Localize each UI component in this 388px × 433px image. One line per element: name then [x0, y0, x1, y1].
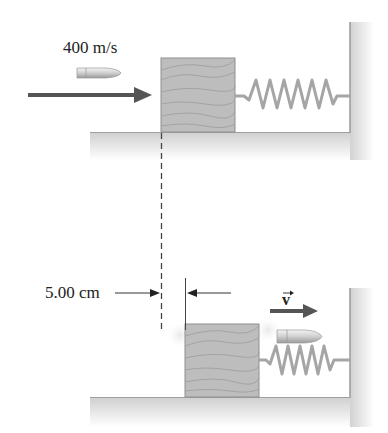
floor [90, 397, 360, 427]
spring [235, 80, 350, 108]
wall [350, 288, 374, 427]
displacement-label: 5.00 cm [45, 283, 100, 303]
velocity-arrow [270, 291, 318, 319]
wooden-block [185, 324, 259, 397]
bullet-icon [77, 68, 121, 78]
displacement-marker [115, 278, 231, 330]
floor [90, 132, 360, 160]
bullet-speed-label: 400 m/s [63, 38, 117, 58]
bullet-icon [277, 330, 322, 343]
wooden-block [161, 58, 235, 132]
bottom-panel [90, 278, 374, 427]
bullet-direction-arrow [28, 87, 152, 103]
spring [259, 346, 350, 374]
velocity-label: v [282, 291, 290, 309]
wall [350, 22, 374, 160]
diagram-canvas [0, 0, 388, 433]
